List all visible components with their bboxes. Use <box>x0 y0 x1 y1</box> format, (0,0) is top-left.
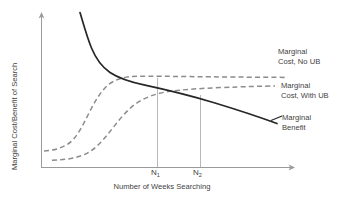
legend-label-marginal-cost-no-ub: Marginal Cost, No UB <box>278 47 348 66</box>
series-marginal-benefit <box>80 13 277 124</box>
tick-label-n1: N1 <box>151 168 160 178</box>
legend-label-marginal-benefit: Marginal Benefit <box>282 113 348 132</box>
series-marginal-cost-with-ub <box>52 86 275 160</box>
legend-mc-with-ub-line2: Cost, With UB <box>281 91 350 101</box>
legend-label-marginal-cost-with-ub: Marginal Cost, With UB <box>281 81 350 100</box>
tick-n2-sub: 2 <box>199 172 202 178</box>
x-axis <box>42 165 296 171</box>
legend-mb-line2: Benefit <box>282 123 348 133</box>
tick-n1-sub: 1 <box>157 172 160 178</box>
legend-mb-line1: Marginal <box>282 113 348 123</box>
legend-mc-no-ub-line2: Cost, No UB <box>278 57 348 67</box>
y-axis-title: Marginal Cost/Benefit of Search <box>10 10 24 170</box>
y-axis <box>39 12 45 168</box>
tick-label-n2: N2 <box>193 168 202 178</box>
x-axis-title: Number of Weeks Searching <box>92 182 232 192</box>
legend-mc-no-ub-line1: Marginal <box>278 47 348 57</box>
tick-n1-base: N <box>151 168 157 177</box>
economics-chart: Marginal Cost/Benefit of Search Number o… <box>0 0 350 199</box>
tick-n2-base: N <box>193 168 199 177</box>
leader-line-marginal-benefit <box>271 116 282 121</box>
legend-mc-with-ub-line1: Marginal <box>281 81 350 91</box>
